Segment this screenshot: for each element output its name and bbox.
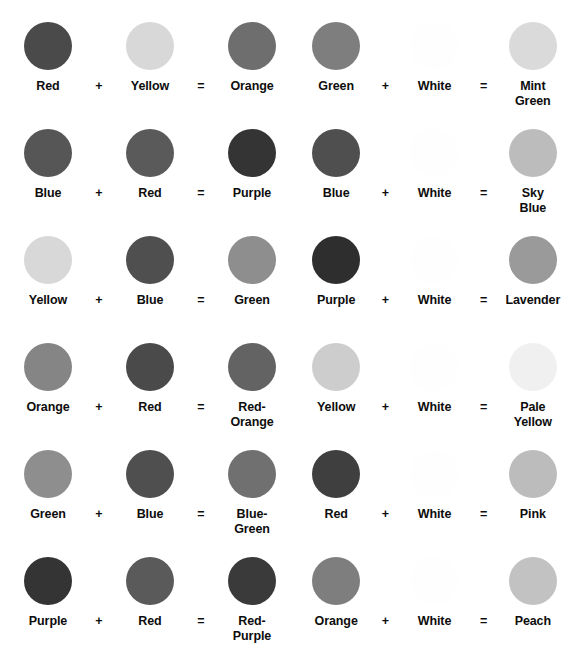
color-label: Orange (230, 79, 273, 94)
color-swatch (126, 343, 174, 391)
color-label: Green (318, 79, 354, 94)
color-label: White (418, 293, 452, 308)
color-label: Blue (323, 186, 350, 201)
plus-operator: + (86, 236, 112, 307)
color-label: Purple (233, 186, 271, 201)
term-red-plus-yellow-2: Orange (214, 22, 290, 94)
equation-blue-plus-white: Blue+White=Sky Blue (300, 129, 569, 236)
color-swatch (509, 236, 557, 284)
term-blue-plus-white-1: White (398, 129, 470, 201)
color-swatch (126, 129, 174, 177)
color-swatch (509, 557, 557, 605)
equals-operator: = (188, 557, 214, 628)
color-label: Orange (315, 614, 358, 629)
term-purple-plus-red-0: Purple (10, 557, 86, 629)
color-label: Green (30, 507, 66, 522)
color-swatch (312, 450, 360, 498)
term-orange-plus-red-0: Orange (10, 343, 86, 415)
color-label: Yellow (131, 79, 169, 94)
color-label: Lavender (505, 293, 560, 308)
color-label: Mint Green (515, 79, 551, 110)
term-blue-plus-white-2: Sky Blue (497, 129, 569, 217)
term-blue-plus-red-2: Purple (214, 129, 290, 201)
term-yellow-plus-white-0: Yellow (300, 343, 372, 415)
equals-operator: = (188, 236, 214, 307)
equation-blue-plus-red: Blue+Red=Purple (0, 129, 300, 236)
color-label: Blue (137, 507, 164, 522)
term-purple-plus-white-0: Purple (300, 236, 372, 308)
equals-operator: = (188, 129, 214, 200)
color-label: Red (325, 507, 348, 522)
term-yellow-plus-white-1: White (398, 343, 470, 415)
term-purple-plus-red-2: Red- Purple (214, 557, 290, 645)
color-swatch (228, 557, 276, 605)
term-blue-plus-red-0: Blue (10, 129, 86, 201)
equation-green-plus-blue: Green+Blue=Blue- Green (0, 450, 300, 557)
term-red-plus-white-1: White (398, 450, 470, 522)
term-purple-plus-red-1: Red (112, 557, 188, 629)
term-orange-plus-white-0: Orange (300, 557, 372, 629)
color-swatch (228, 22, 276, 70)
color-label: White (418, 186, 452, 201)
color-swatch (312, 236, 360, 284)
color-label: Red- Orange (230, 400, 273, 431)
plus-operator: + (372, 22, 398, 93)
color-swatch (24, 236, 72, 284)
color-label: Red (138, 614, 161, 629)
color-label: Pale Yellow (514, 400, 552, 431)
term-green-plus-white-2: Mint Green (497, 22, 569, 110)
term-orange-plus-white-2: Peach (497, 557, 569, 629)
color-label: White (418, 614, 452, 629)
color-swatch (126, 22, 174, 70)
equals-operator: = (471, 236, 497, 307)
color-swatch (228, 236, 276, 284)
equals-operator: = (188, 450, 214, 521)
equals-operator: = (188, 343, 214, 414)
term-orange-plus-red-2: Red- Orange (214, 343, 290, 431)
color-label: Purple (29, 614, 67, 629)
color-label: Purple (317, 293, 355, 308)
color-swatch (126, 450, 174, 498)
equals-operator: = (471, 450, 497, 521)
plus-operator: + (86, 343, 112, 414)
color-label: Red (138, 186, 161, 201)
color-label: White (418, 79, 452, 94)
color-label: White (418, 400, 452, 415)
equation-purple-plus-red: Purple+Red=Red- Purple (0, 557, 300, 664)
equation-purple-plus-white: Purple+White=Lavender (300, 236, 569, 343)
color-swatch (312, 557, 360, 605)
term-green-plus-white-1: White (398, 22, 470, 94)
term-green-plus-blue-2: Blue- Green (214, 450, 290, 538)
color-label: Green (234, 293, 270, 308)
color-label: Yellow (29, 293, 67, 308)
plus-operator: + (372, 129, 398, 200)
term-blue-plus-red-1: Red (112, 129, 188, 201)
color-swatch (410, 450, 458, 498)
equation-yellow-plus-white: Yellow+White=Pale Yellow (300, 343, 569, 450)
color-label: Blue (137, 293, 164, 308)
term-green-plus-blue-1: Blue (112, 450, 188, 522)
term-green-plus-blue-0: Green (10, 450, 86, 522)
term-purple-plus-white-1: White (398, 236, 470, 308)
color-label: Red- Purple (233, 614, 271, 645)
color-swatch (24, 129, 72, 177)
color-swatch (24, 450, 72, 498)
color-label: Sky Blue (519, 186, 546, 217)
color-swatch (509, 129, 557, 177)
equation-red-plus-white: Red+White=Pink (300, 450, 569, 557)
term-yellow-plus-blue-0: Yellow (10, 236, 86, 308)
plus-operator: + (372, 343, 398, 414)
color-label: Red (36, 79, 59, 94)
color-swatch (312, 343, 360, 391)
plus-operator: + (372, 557, 398, 628)
term-red-plus-white-2: Pink (497, 450, 569, 522)
equals-operator: = (471, 343, 497, 414)
term-yellow-plus-blue-1: Blue (112, 236, 188, 308)
color-swatch (228, 343, 276, 391)
term-red-plus-yellow-0: Red (10, 22, 86, 94)
color-label: Blue (35, 186, 62, 201)
term-red-plus-white-0: Red (300, 450, 372, 522)
equals-operator: = (188, 22, 214, 93)
plus-operator: + (86, 450, 112, 521)
color-swatch (228, 450, 276, 498)
